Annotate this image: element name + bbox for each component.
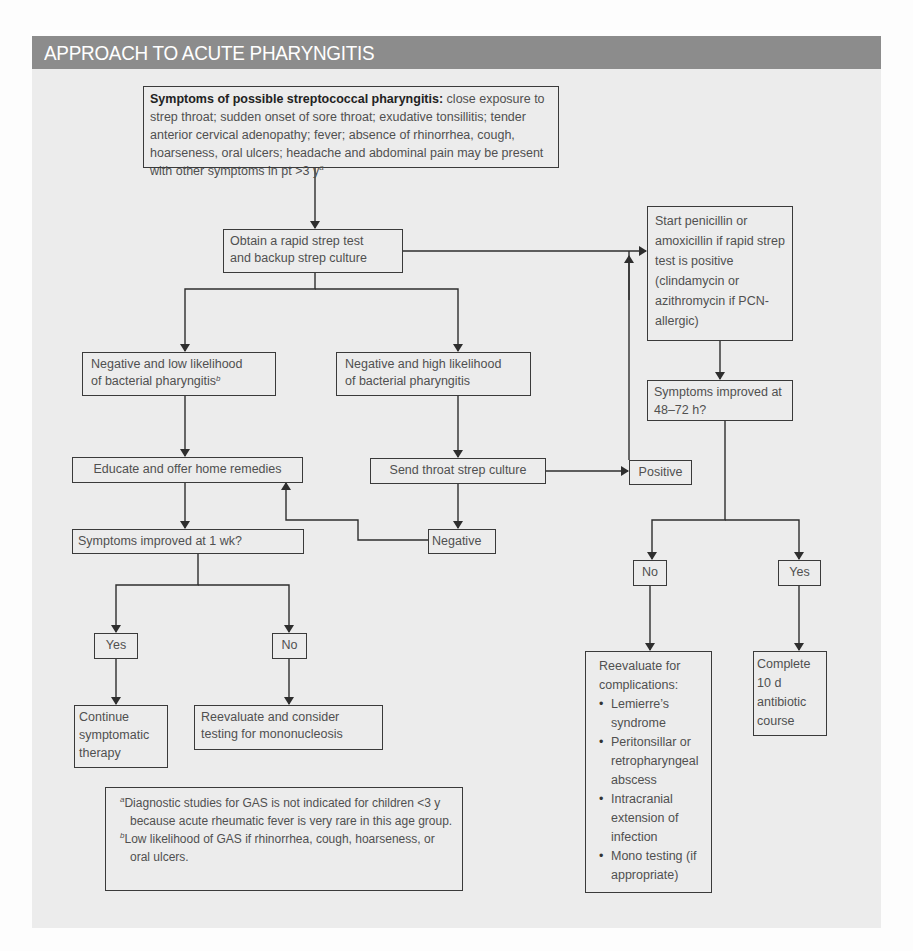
complete-course-text: Complete 10 d antibiotic course — [757, 657, 811, 728]
footnote-b: bLow likelihood of GAS if rhinorrhea, co… — [120, 830, 454, 866]
complication-item: Intracranial extension of infection — [599, 790, 704, 847]
complications-heading: Reevaluate for complications: — [599, 657, 704, 695]
continue-therapy-text: Continue symptomatic therapy — [79, 710, 149, 760]
negative-low-likelihood-box: Negative and low likelihood of bacterial… — [82, 352, 276, 396]
reevaluate-mono-line1: Reevaluate and consider — [201, 709, 376, 726]
yes-left-box: Yes — [94, 633, 138, 659]
improved-1wk-text: Symptoms improved at 1 wk? — [78, 534, 242, 548]
neg-high-line2: of bacterial pharyngitis — [345, 373, 522, 390]
start-antibiotics-text: Start penicillin or amoxicillin if rapid… — [655, 214, 785, 328]
educate-box: Educate and offer home remedies — [72, 457, 303, 483]
continue-therapy-box: Continue symptomatic therapy — [74, 705, 168, 768]
footnote-ref-a: a — [319, 163, 323, 172]
positive-box: Positive — [629, 460, 692, 485]
neg-low-line1: Negative and low likelihood — [91, 356, 267, 373]
footnote-a: aDiagnostic studies for GAS is not indic… — [120, 794, 454, 830]
yes-left-text: Yes — [106, 638, 126, 652]
improved-48-72h-box: Symptoms improved at 48–72 h? — [647, 380, 793, 421]
start-antibiotics-box: Start penicillin or amoxicillin if rapid… — [647, 206, 793, 341]
send-culture-text: Send throat strep culture — [390, 463, 527, 477]
no-left-text: No — [282, 638, 298, 652]
symptoms-label: Symptoms of possible streptococcal phary… — [150, 92, 443, 106]
negative-text: Negative — [432, 534, 481, 548]
negative-box: Negative — [428, 529, 496, 554]
footnotes-box: aDiagnostic studies for GAS is not indic… — [105, 787, 463, 891]
complication-item: Mono testing (if appropriate) — [599, 847, 704, 885]
no-right-box: No — [633, 560, 667, 586]
reevaluate-mono-line2: testing for mononucleosis — [201, 726, 376, 743]
reevaluate-complications-box: Reevaluate for complications: Lemierre’s… — [585, 651, 712, 893]
complication-item: Lemierre’s syndrome — [599, 695, 704, 733]
obtain-test-box: Obtain a rapid strep test and backup str… — [223, 229, 403, 273]
symptoms-box: Symptoms of possible streptococcal phary… — [143, 86, 559, 168]
improved-48-72h-text: Symptoms improved at 48–72 h? — [654, 385, 782, 417]
footnote-ref-b: b — [216, 374, 220, 383]
complications-list: Lemierre’s syndrome Peritonsillar or ret… — [599, 695, 704, 885]
no-right-text: No — [642, 565, 658, 579]
send-culture-box: Send throat strep culture — [370, 458, 546, 484]
neg-low-line2: of bacterial pharyngitis — [91, 374, 216, 388]
no-left-box: No — [272, 633, 307, 659]
obtain-test-line1: Obtain a rapid strep test — [230, 233, 396, 250]
neg-high-line1: Negative and high likelihood — [345, 356, 522, 373]
negative-high-likelihood-box: Negative and high likelihood of bacteria… — [336, 352, 531, 396]
positive-text: Positive — [639, 465, 683, 479]
educate-text: Educate and offer home remedies — [93, 462, 281, 476]
obtain-test-line2: and backup strep culture — [230, 250, 396, 267]
complication-item: Peritonsillar or retropharyngeal abscess — [599, 733, 704, 790]
yes-right-text: Yes — [789, 565, 809, 579]
reevaluate-mono-box: Reevaluate and consider testing for mono… — [194, 705, 383, 750]
yes-right-box: Yes — [778, 560, 821, 586]
complete-course-box: Complete 10 d antibiotic course — [753, 651, 827, 736]
improved-1wk-box: Symptoms improved at 1 wk? — [72, 529, 304, 554]
